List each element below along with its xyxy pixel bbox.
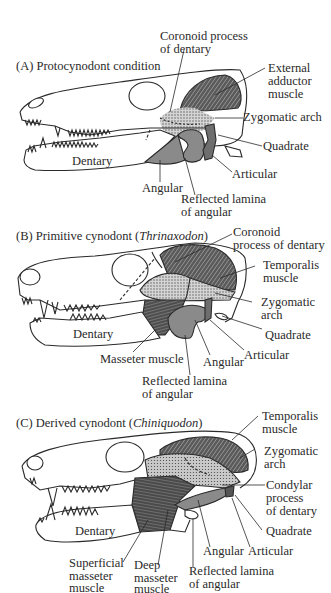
panel-b-genus: Thrinaxodon xyxy=(139,229,204,243)
label-coronoid-b-2: process of dentary xyxy=(233,239,325,252)
label-reflected-lamina-a-2: of angular xyxy=(181,206,232,219)
panel-c-skull xyxy=(22,431,256,542)
label-angular-c: Angular xyxy=(203,545,244,558)
label-condylar-c-3: of dentary xyxy=(266,505,317,518)
label-reflected-lamina-c-2: of angular xyxy=(189,578,240,591)
label-coronoid-a-2: of dentary xyxy=(160,43,211,56)
label-zygomatic-b-2: arch xyxy=(261,309,283,322)
label-articular-a: Articular xyxy=(232,168,277,181)
label-dentary-b: Dentary xyxy=(73,328,113,341)
panel-a-title-text: (A) Protocynodont condition xyxy=(16,59,160,73)
label-zygomatic-a: Zygomatic arch xyxy=(243,111,322,124)
label-temporalis-c-2: muscle xyxy=(262,423,297,436)
label-superficial-masseter-3: muscle xyxy=(69,583,104,593)
panel-b-title-suffix: ) xyxy=(204,229,208,243)
panel-a-title: (A) Protocynodont condition xyxy=(16,59,160,73)
label-quadrate-b: Quadrate xyxy=(265,329,311,342)
label-reflected-lamina-b-2: of angular xyxy=(142,388,193,401)
label-articular-c: Articular xyxy=(248,545,293,558)
label-angular-b: Angular xyxy=(203,356,244,369)
panel-c-title: (C) Derived cynodont (Chiniquodon) xyxy=(16,416,202,430)
label-dentary-c: Dentary xyxy=(75,525,115,538)
panel-b-title-text: (B) Primitive cynodont ( xyxy=(16,229,139,243)
panel-b-title: (B) Primitive cynodont (Thrinaxodon) xyxy=(16,229,208,243)
label-quadrate-c: Quadrate xyxy=(266,525,312,538)
label-articular-b: Articular xyxy=(244,349,289,362)
panel-c-genus: Chiniquodon xyxy=(133,416,198,430)
label-dentary-a: Dentary xyxy=(72,155,112,168)
panel-b-skull xyxy=(18,243,246,346)
label-zygomatic-c-2: arch xyxy=(264,458,286,471)
label-quadrate-a: Quadrate xyxy=(263,140,309,153)
panel-c-title-text: (C) Derived cynodont ( xyxy=(16,416,133,430)
panel-c-title-suffix: ) xyxy=(198,416,202,430)
label-deep-masseter-3: muscle xyxy=(134,585,169,593)
label-masseter-b: Masseter muscle xyxy=(100,353,184,366)
label-angular-a: Angular xyxy=(142,182,183,195)
label-external-adductor-3: muscle xyxy=(268,88,303,101)
label-temporalis-b-2: muscle xyxy=(263,272,298,285)
